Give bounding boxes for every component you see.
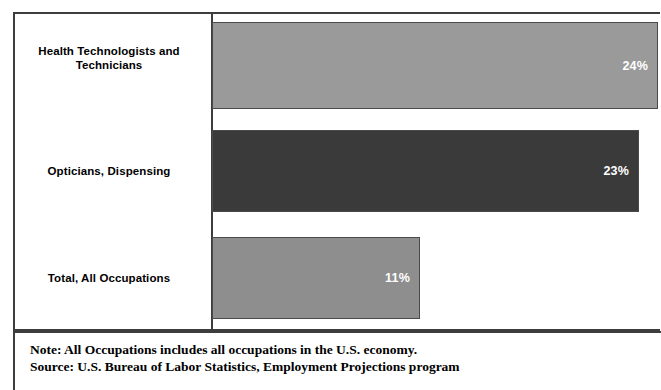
category-label-total-all-occupations: Total, All Occupations [15, 271, 203, 285]
category-label-opticians-dispensing: Opticians, Dispensing [15, 164, 203, 178]
category-label-line-1: Opticians, Dispensing [48, 165, 171, 177]
footnote-divider [13, 331, 661, 333]
bar-opticians-dispensing[interactable]: 23% [212, 130, 639, 212]
bar-value-label-opticians-dispensing: 23% [603, 164, 629, 178]
category-label-line-1: Health Technologists and [38, 45, 179, 57]
category-label-health-technologists: Health Technologists and Technicians [15, 44, 203, 72]
category-label-line-2: Technicians [76, 59, 143, 71]
bar-value-label-total-all-occupations: 11% [385, 271, 410, 285]
left-spine-lower [13, 331, 15, 390]
footnote-source: Source: U.S. Bureau of Labor Statistics,… [30, 358, 650, 375]
footnotes: Note: All Occupations includes all occup… [30, 341, 650, 375]
category-label-line-1: Total, All Occupations [48, 272, 170, 284]
bar-health-technologists[interactable]: 24% [212, 22, 658, 109]
bar-value-label-health-technologists: 24% [622, 59, 648, 73]
bar-chart-figure: Health Technologists and Technicians 24%… [0, 0, 661, 390]
bar-total-all-occupations[interactable]: 11% [212, 237, 420, 319]
footnote-note: Note: All Occupations includes all occup… [30, 341, 650, 358]
